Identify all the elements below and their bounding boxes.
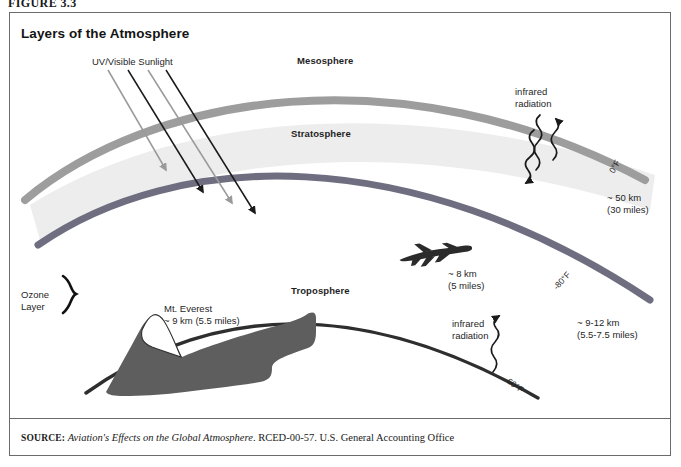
aircraft-altitude-line2: (5 miles) bbox=[448, 280, 484, 291]
infrared-lower-line2: radiation bbox=[452, 330, 488, 341]
infrared-radiation-lower bbox=[491, 316, 499, 372]
source-label: SOURCE: bbox=[21, 433, 65, 443]
infrared-upper-line2: radiation bbox=[515, 98, 551, 109]
altitude-tropopause-line1: ~ 9-12 km bbox=[577, 317, 620, 328]
infrared-upper-label: infrared radiation bbox=[515, 86, 551, 109]
source-citation: SOURCE: Aviation's Effects on the Global… bbox=[21, 432, 641, 443]
layer-label-mesosphere: Mesosphere bbox=[297, 55, 353, 67]
sunlight-label: UV/Visible Sunlight bbox=[92, 56, 173, 68]
ozone-layer-label: Ozone Layer bbox=[21, 289, 49, 312]
infrared-lower-label: infrared radiation bbox=[452, 318, 488, 341]
layer-label-stratosphere: Stratosphere bbox=[291, 128, 351, 140]
source-rest: . RCED-00-57. U.S. General Accounting Of… bbox=[253, 432, 454, 443]
atmosphere-diagram bbox=[0, 0, 681, 467]
altitude-mesopause-line2: (30 miles) bbox=[607, 204, 649, 215]
altitude-tropopause-line2: (5.5-7.5 miles) bbox=[577, 329, 638, 340]
ozone-layer-label-line1: Ozone bbox=[21, 289, 49, 300]
infrared-lower-line1: infrared bbox=[452, 318, 484, 329]
source-title: Aviation's Effects on the Global Atmosph… bbox=[68, 432, 253, 443]
layer-label-troposphere: Troposphere bbox=[291, 285, 350, 297]
everest-label: Mt. Everest ~ 9 km (5.5 miles) bbox=[164, 303, 240, 326]
infrared-upper-line1: infrared bbox=[515, 86, 547, 97]
everest-label-line1: Mt. Everest bbox=[164, 303, 212, 314]
ozone-layer-label-line2: Layer bbox=[21, 301, 45, 312]
altitude-mesopause-label: ~ 50 km (30 miles) bbox=[607, 192, 649, 215]
source-divider bbox=[9, 418, 671, 419]
aircraft-altitude-line1: ~ 8 km bbox=[448, 268, 477, 279]
altitude-mesopause-line1: ~ 50 km bbox=[607, 192, 641, 203]
altitude-tropopause-label: ~ 9-12 km (5.5-7.5 miles) bbox=[577, 317, 638, 340]
airplane-icon bbox=[398, 236, 474, 269]
everest-label-line2: ~ 9 km (5.5 miles) bbox=[164, 315, 240, 326]
aircraft-altitude-label: ~ 8 km (5 miles) bbox=[448, 268, 484, 291]
ozone-layer-bracket bbox=[63, 276, 76, 313]
